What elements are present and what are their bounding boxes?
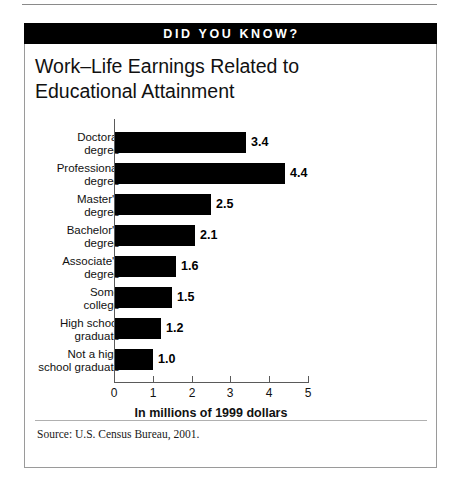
- bar-value-label: 1.5: [177, 287, 194, 308]
- x-axis-tick-label: 1: [143, 386, 163, 400]
- x-axis-title: In millions of 1999 dollars: [114, 406, 308, 420]
- bar-value-label: 2.5: [216, 194, 233, 215]
- bar-value-label: 4.4: [290, 163, 307, 184]
- category-label-line: Some: [20, 286, 120, 299]
- category-label: Bachelor'sdegree: [20, 224, 120, 249]
- category-label-line: High school: [20, 317, 120, 330]
- bar-value-label: 1.6: [181, 256, 198, 277]
- x-axis-tick: [153, 376, 154, 382]
- source-note: Source: U.S. Census Bureau, 2001.: [37, 428, 199, 440]
- category-label-line: degree: [20, 206, 120, 219]
- category-label: Professionaldegree: [20, 162, 120, 187]
- bar-value-label: 1.2: [166, 318, 183, 339]
- bar: [114, 256, 176, 277]
- bar-chart-plot: Doctoraldegree3.4Professionaldegree4.4Ma…: [25, 24, 438, 469]
- category-label-line: school graduate: [20, 361, 120, 374]
- category-label-line: Master's: [20, 193, 120, 206]
- category-label-line: degree: [20, 268, 120, 281]
- x-axis-tick-label: 3: [220, 386, 240, 400]
- category-label: Somecollege: [20, 286, 120, 311]
- source-divider: [35, 420, 427, 421]
- bar-value-label: 3.4: [251, 132, 268, 153]
- category-label: Doctoraldegree: [20, 131, 120, 156]
- bar: [114, 318, 161, 339]
- x-axis-tick: [308, 376, 309, 382]
- category-label-line: Professional: [20, 162, 120, 175]
- category-label-line: Associate's: [20, 255, 120, 268]
- category-label: Master'sdegree: [20, 193, 120, 218]
- bar: [114, 287, 172, 308]
- category-label-line: graduate: [20, 330, 120, 343]
- bar-value-label: 1.0: [158, 349, 175, 370]
- bar: [114, 349, 153, 370]
- category-label-line: college: [20, 299, 120, 312]
- x-axis-tick-label: 0: [104, 386, 124, 400]
- x-axis-tick: [114, 376, 115, 382]
- category-label-line: degree: [20, 175, 120, 188]
- x-axis-tick: [230, 376, 231, 382]
- category-label: Not a highschool graduate: [20, 348, 120, 373]
- figure-box: DID YOU KNOW? Work–Life Earnings Related…: [24, 23, 437, 468]
- category-label-line: Not a high: [20, 348, 120, 361]
- page-top-rule: [22, 4, 437, 5]
- x-axis-tick: [269, 376, 270, 382]
- bar: [114, 194, 211, 215]
- category-label-line: Doctoral: [20, 131, 120, 144]
- bar: [114, 163, 285, 184]
- category-label: Associate'sdegree: [20, 255, 120, 280]
- x-axis-tick: [192, 376, 193, 382]
- category-label-line: degree: [20, 237, 120, 250]
- bar-value-label: 2.1: [200, 225, 217, 246]
- x-axis-tick-label: 2: [182, 386, 202, 400]
- bar: [114, 225, 195, 246]
- y-axis-line: [114, 119, 115, 382]
- x-axis-line: [114, 382, 309, 383]
- category-label-line: degree: [20, 144, 120, 157]
- bar: [114, 132, 246, 153]
- category-label: High schoolgraduate: [20, 317, 120, 342]
- x-axis-tick-label: 5: [298, 386, 318, 400]
- x-axis-tick-label: 4: [259, 386, 279, 400]
- category-label-line: Bachelor's: [20, 224, 120, 237]
